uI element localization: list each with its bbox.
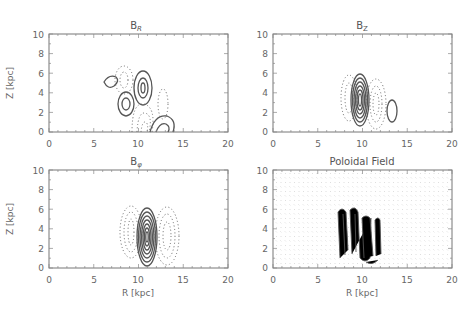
x-axis-label: R [kpc]: [346, 288, 378, 298]
svg-text:10: 10: [356, 139, 368, 149]
svg-text:10: 10: [33, 30, 45, 40]
svg-text:6: 6: [262, 69, 268, 79]
svg-text:2: 2: [262, 108, 268, 118]
svg-text:8: 8: [262, 185, 268, 195]
panel-title: BR: [130, 20, 142, 33]
x-axis-label: R [kpc]: [122, 288, 154, 298]
svg-text:20: 20: [222, 275, 234, 285]
x-ticks: 0 5 10 15 20: [46, 139, 234, 149]
svg-text:8: 8: [262, 49, 268, 59]
y-ticks: 0 2 4 6 8 10: [33, 166, 45, 273]
y-axis-label: Z [kpc]: [5, 67, 15, 99]
panel-bz: BZ 0 2 4 6 8 10 0 5 10 15 20: [257, 20, 458, 149]
svg-text:2: 2: [38, 244, 44, 254]
x-ticks: 0 5 10 15 20: [270, 275, 458, 285]
svg-text:0: 0: [262, 263, 268, 273]
svg-text:20: 20: [446, 275, 458, 285]
svg-text:4: 4: [262, 224, 268, 234]
panel-title: BZ: [356, 20, 368, 33]
svg-text:10: 10: [257, 30, 269, 40]
svg-text:15: 15: [401, 139, 412, 149]
svg-text:8: 8: [38, 185, 44, 195]
x-ticks: 0 5 10 15 20: [46, 275, 234, 285]
panel-title: Poloidal Field: [330, 156, 395, 167]
panel-br: BR Z [kpc] 0 2 4 6 8 10 0 5 10 15 20: [5, 20, 234, 149]
svg-text:15: 15: [177, 139, 188, 149]
svg-text:4: 4: [38, 224, 44, 234]
strong-vectors: [338, 208, 381, 264]
minor-ticks: [49, 34, 452, 268]
svg-text:10: 10: [356, 275, 368, 285]
panel-poloidal: Poloidal Field 0 2 4 6 8 10 0 5 10 15 20: [257, 156, 458, 298]
svg-text:15: 15: [177, 275, 188, 285]
svg-text:10: 10: [257, 166, 269, 176]
figure: BR Z [kpc] 0 2 4 6 8 10 0 5 10 15 20: [0, 0, 473, 315]
svg-text:10: 10: [33, 166, 45, 176]
svg-text:5: 5: [91, 139, 97, 149]
svg-text:8: 8: [38, 49, 44, 59]
y-ticks: 0 2 4 6 8 10: [257, 30, 269, 137]
y-ticks: 0 2 4 6 8 10: [257, 166, 269, 273]
svg-text:5: 5: [315, 139, 321, 149]
contours: [120, 206, 179, 266]
svg-text:10: 10: [132, 275, 144, 285]
contours: [341, 74, 397, 129]
panel-bphi: Bφ Z [kpc] 0 2 4 6 8 10 0 5 10 15 20 R […: [5, 156, 234, 298]
svg-text:0: 0: [38, 263, 44, 273]
svg-text:5: 5: [315, 275, 321, 285]
svg-text:4: 4: [38, 88, 44, 98]
svg-text:5: 5: [91, 275, 97, 285]
svg-text:0: 0: [270, 139, 276, 149]
svg-text:10: 10: [132, 139, 144, 149]
svg-text:2: 2: [262, 244, 268, 254]
panel-title: Bφ: [130, 156, 142, 169]
svg-text:20: 20: [222, 139, 234, 149]
y-axis-label: Z [kpc]: [5, 203, 15, 235]
svg-text:6: 6: [38, 205, 44, 215]
svg-text:0: 0: [38, 127, 44, 137]
svg-text:0: 0: [46, 139, 52, 149]
x-ticks: 0 5 10 15 20: [270, 139, 458, 149]
contours: [104, 66, 174, 132]
svg-text:15: 15: [401, 275, 412, 285]
svg-text:6: 6: [262, 205, 268, 215]
svg-text:0: 0: [270, 275, 276, 285]
svg-text:0: 0: [46, 275, 52, 285]
y-ticks: 0 2 4 6 8 10: [33, 30, 45, 137]
svg-text:6: 6: [38, 69, 44, 79]
svg-text:4: 4: [262, 88, 268, 98]
svg-text:0: 0: [262, 127, 268, 137]
svg-text:20: 20: [446, 139, 458, 149]
svg-text:2: 2: [38, 108, 44, 118]
